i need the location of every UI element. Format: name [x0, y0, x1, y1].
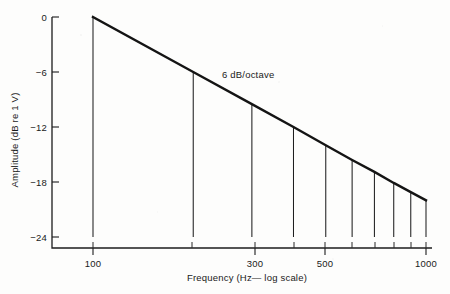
x-axis-title: Frequency (Hz— log scale)	[187, 272, 307, 283]
x-tick-label-300: 300	[247, 258, 263, 269]
slope-annotation-label: 6 dB/octave	[222, 69, 274, 80]
y-tick-label-m12: −12	[30, 122, 47, 133]
x-major-tick-marks	[93, 248, 426, 255]
y-tick-label-m18: −18	[30, 177, 47, 188]
x-tick-label-100: 100	[85, 258, 101, 269]
x-tick-label-500: 500	[317, 258, 333, 269]
figure-canvas: 0 −6 −12 −18 −24 100	[0, 0, 450, 294]
y-axis-title: Amplitude (dB re 1 V)	[9, 92, 20, 187]
x-tick-labels: 100 300 500 1000	[85, 258, 437, 269]
y-tick-labels: 0 −6 −12 −18 −24	[30, 12, 47, 243]
x-minor-tick-marks	[93, 242, 426, 248]
y-tick-marks	[52, 17, 59, 237]
y-tick-label-0: 0	[42, 12, 47, 23]
x-tick-label-1000: 1000	[415, 258, 437, 269]
y-tick-label-m24: −24	[30, 232, 47, 243]
line-chart: 0 −6 −12 −18 −24 100	[0, 0, 450, 294]
axis-lines	[52, 17, 432, 248]
y-tick-label-m6: −6	[36, 67, 47, 78]
drop-lines-group	[93, 17, 426, 237]
response-curve	[93, 17, 426, 200]
